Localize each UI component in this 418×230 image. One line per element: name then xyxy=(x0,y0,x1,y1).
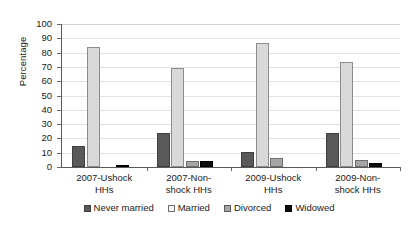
legend-item[interactable]: Married xyxy=(168,203,210,213)
y-axis-tick-label: 60 xyxy=(26,76,52,86)
bar-widowed xyxy=(369,163,382,167)
y-axis-tick-label: 80 xyxy=(26,48,52,58)
bar-widowed xyxy=(200,161,213,167)
y-axis-tick-labels: 0102030405060708090100 xyxy=(22,0,52,230)
bar-group xyxy=(316,24,401,167)
y-axis-tick-label: 70 xyxy=(26,62,52,72)
y-axis-tick-label: 30 xyxy=(26,119,52,129)
y-axis-tick-label: 10 xyxy=(26,148,52,158)
legend: Never marriedMarriedDivorcedWidowed xyxy=(0,203,418,213)
y-axis-tick-label: 90 xyxy=(26,33,52,43)
x-axis-category-label: 2009-UshockHHs xyxy=(231,172,316,195)
bar-widowed xyxy=(116,165,129,167)
bar-married xyxy=(171,68,184,167)
bar-chart: Percentage 0102030405060708090100 2007-U… xyxy=(0,0,418,230)
bar-married xyxy=(340,62,353,167)
y-axis-tick-label: 50 xyxy=(26,91,52,101)
y-axis-tick-label: 40 xyxy=(26,105,52,115)
x-axis-category-label-line: 2007-Non- xyxy=(147,172,232,184)
x-axis-tick-mark xyxy=(147,167,148,171)
legend-swatch-icon xyxy=(224,205,231,212)
bar-never-married xyxy=(157,133,170,167)
bar-married xyxy=(87,47,100,167)
x-axis-category-label: 2007-Non-shock HHs xyxy=(147,172,232,195)
bar-never-married xyxy=(241,152,254,167)
x-axis-category-label-line: shock HHs xyxy=(316,184,401,196)
bar-divorced xyxy=(186,161,199,167)
legend-swatch-icon xyxy=(84,205,91,212)
y-axis-tick-label: 0 xyxy=(26,162,52,172)
y-axis-tick-label: 100 xyxy=(26,19,52,29)
x-axis-tick-mark xyxy=(400,167,401,171)
legend-item[interactable]: Widowed xyxy=(285,203,334,213)
legend-item-label: Divorced xyxy=(234,203,272,213)
plot-area xyxy=(62,24,400,167)
bar-never-married xyxy=(326,133,339,167)
legend-item-label: Married xyxy=(178,203,210,213)
x-axis-category-label-line: HHs xyxy=(62,184,147,196)
legend-item[interactable]: Divorced xyxy=(224,203,272,213)
x-axis-tick-mark xyxy=(316,167,317,171)
bar-group xyxy=(231,24,316,167)
x-axis-category-label-line: 2009-Non- xyxy=(316,172,401,184)
y-axis-tick-label: 20 xyxy=(26,133,52,143)
x-axis-tick-mark xyxy=(231,167,232,171)
legend-item-label: Widowed xyxy=(295,203,334,213)
bar-group xyxy=(147,24,232,167)
x-axis-category-label-line: HHs xyxy=(231,184,316,196)
x-axis-category-label: 2007-UshockHHs xyxy=(62,172,147,195)
x-axis-category-label-line: 2009-Ushock xyxy=(231,172,316,184)
x-axis-category-label: 2009-Non-shock HHs xyxy=(316,172,401,195)
legend-item[interactable]: Never married xyxy=(84,203,154,213)
x-axis-category-label-line: 2007-Ushock xyxy=(62,172,147,184)
legend-swatch-icon xyxy=(168,205,175,212)
bar-married xyxy=(256,43,269,167)
legend-item-label: Never married xyxy=(94,203,154,213)
x-axis-category-label-line: shock HHs xyxy=(147,184,232,196)
bar-divorced xyxy=(355,160,368,167)
bar-group xyxy=(62,24,147,167)
bar-never-married xyxy=(72,146,85,167)
legend-swatch-icon xyxy=(285,205,292,212)
bar-divorced xyxy=(270,158,283,167)
